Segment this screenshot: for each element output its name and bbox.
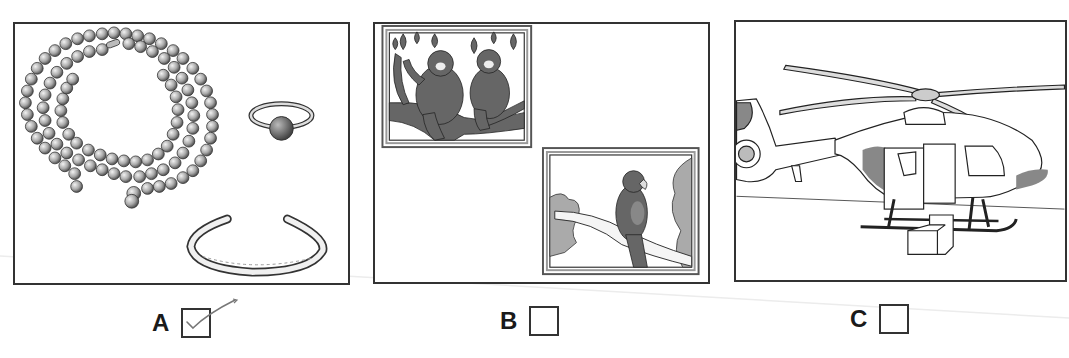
option-a-checkbox[interactable] — [181, 308, 211, 338]
option-b-checkbox[interactable] — [529, 306, 559, 336]
checkmark-icon — [181, 296, 241, 336]
jewellery-illustration — [15, 24, 348, 283]
pearl-necklace-icon — [20, 27, 219, 208]
bangle-icon — [191, 219, 323, 272]
option-b: B — [500, 306, 559, 336]
helicopter-icon — [736, 65, 1064, 254]
option-a: A — [152, 308, 211, 338]
parrot-picture — [543, 148, 699, 274]
picture-panel-c[interactable] — [734, 20, 1067, 282]
option-letter-a: A — [152, 311, 169, 335]
ring-icon — [251, 104, 312, 140]
picture-panel-a[interactable] — [13, 22, 350, 285]
picture-panel-b[interactable] — [373, 22, 710, 284]
animals-illustration — [375, 24, 708, 282]
option-letter-b: B — [500, 309, 517, 333]
helicopter-illustration — [736, 22, 1065, 280]
monkeys-picture — [382, 26, 531, 147]
option-letter-c: C — [850, 307, 867, 331]
option-c-checkbox[interactable] — [879, 304, 909, 334]
option-c: C — [850, 304, 909, 334]
